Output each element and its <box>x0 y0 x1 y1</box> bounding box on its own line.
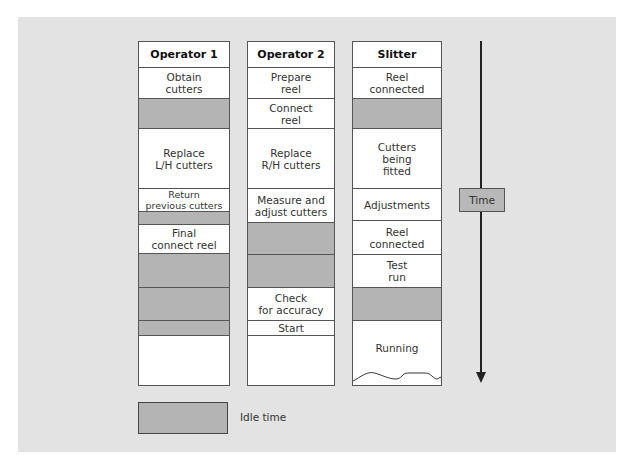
task-block: Measure and adjust cutters <box>248 189 334 223</box>
task-block: Cutters being fitted <box>353 129 441 189</box>
column-header: Slitter <box>353 42 441 68</box>
task-block <box>139 336 229 385</box>
task-block: Replace L/H cutters <box>139 129 229 189</box>
arrow-down-icon <box>476 372 486 383</box>
column-header: Operator 1 <box>139 42 229 68</box>
task-block: Running <box>353 321 441 385</box>
task-block: Test run <box>353 255 441 288</box>
idle-block <box>139 321 229 336</box>
idle-block <box>248 255 334 288</box>
task-block <box>248 336 334 385</box>
idle-block <box>353 99 441 129</box>
time-label: Time <box>459 188 505 212</box>
idle-block <box>139 99 229 129</box>
legend-idle-swatch <box>138 402 228 434</box>
column-operator-2: Operator 2Prepare reelConnect reelReplac… <box>247 41 335 386</box>
continuation-wave-icon <box>353 365 441 385</box>
task-block: Reel connected <box>353 221 441 255</box>
idle-block <box>139 212 229 225</box>
idle-block <box>353 288 441 321</box>
column-slitter: SlitterReel connectedCutters being fitte… <box>352 41 442 386</box>
task-block: Return previous cutters <box>139 189 229 212</box>
task-block: Prepare reel <box>248 68 334 99</box>
task-block: Start <box>248 321 334 336</box>
idle-block <box>139 288 229 321</box>
column-header: Operator 2 <box>248 42 334 68</box>
task-block: Obtain cutters <box>139 68 229 99</box>
task-block: Check for accuracy <box>248 288 334 321</box>
column-operator-1: Operator 1Obtain cuttersReplace L/H cutt… <box>138 41 230 386</box>
task-block: Replace R/H cutters <box>248 129 334 189</box>
task-block: Reel connected <box>353 68 441 99</box>
idle-block <box>248 223 334 255</box>
idle-block <box>139 254 229 288</box>
task-block: Final connect reel <box>139 225 229 254</box>
legend-idle-label: Idle time <box>240 411 286 423</box>
task-block: Adjustments <box>353 189 441 221</box>
task-block: Connect reel <box>248 99 334 129</box>
